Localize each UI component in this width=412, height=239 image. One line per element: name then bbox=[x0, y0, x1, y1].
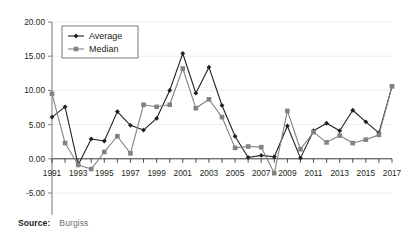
data-point-average bbox=[193, 91, 198, 96]
x-tick-label: 2015 bbox=[357, 168, 376, 178]
data-point-median bbox=[259, 145, 264, 150]
y-tick-label: 5.00 bbox=[29, 120, 46, 130]
series-line-median bbox=[52, 69, 392, 174]
data-point-average bbox=[259, 153, 264, 158]
data-point-median bbox=[194, 106, 199, 111]
data-point-median bbox=[272, 171, 277, 176]
data-point-median bbox=[390, 84, 395, 89]
data-point-median bbox=[246, 144, 251, 149]
data-point-median bbox=[76, 163, 81, 168]
y-tick-label: 20.00 bbox=[24, 17, 45, 27]
legend-label-average: Average bbox=[89, 31, 122, 41]
x-tick-label: 2013 bbox=[330, 168, 349, 178]
x-tick-label: 2011 bbox=[305, 168, 323, 178]
data-point-median bbox=[207, 97, 212, 102]
y-tick-label: -5.00 bbox=[26, 188, 45, 198]
data-point-median bbox=[141, 102, 146, 107]
x-tick-label: 2001 bbox=[174, 168, 193, 178]
data-point-median bbox=[63, 141, 68, 146]
y-tick-label: 10.00 bbox=[24, 85, 45, 95]
x-tick-label: 1995 bbox=[95, 168, 114, 178]
y-tick-label: 0.00 bbox=[29, 154, 46, 164]
data-point-median bbox=[324, 140, 329, 145]
source-value: Burgiss bbox=[59, 218, 88, 228]
chart-figure: 20.0015.0010.005.000.00-5.00199119931995… bbox=[0, 0, 412, 239]
data-point-median bbox=[220, 115, 225, 120]
line-chart: 20.0015.0010.005.000.00-5.00199119931995… bbox=[0, 0, 412, 239]
data-point-median bbox=[180, 66, 185, 71]
data-point-median bbox=[128, 151, 133, 156]
data-point-median bbox=[50, 92, 55, 97]
x-tick-label: 1999 bbox=[147, 168, 166, 178]
x-tick-label: 2009 bbox=[278, 168, 297, 178]
data-point-median bbox=[285, 109, 290, 114]
series-line-average bbox=[52, 53, 392, 164]
data-point-median bbox=[364, 137, 369, 142]
data-point-average bbox=[298, 156, 303, 161]
data-point-average bbox=[207, 65, 212, 70]
data-point-average bbox=[220, 103, 225, 108]
legend-label-median: Median bbox=[89, 44, 119, 54]
y-tick-label: 15.00 bbox=[24, 51, 45, 61]
x-tick-label: 2003 bbox=[200, 168, 219, 178]
x-tick-label: 1997 bbox=[121, 168, 140, 178]
data-point-median bbox=[102, 150, 107, 155]
data-point-median bbox=[350, 141, 355, 146]
data-point-median bbox=[115, 134, 120, 139]
legend-marker-median bbox=[74, 47, 79, 52]
x-tick-label: 2017 bbox=[383, 168, 402, 178]
data-point-median bbox=[233, 146, 238, 151]
data-point-median bbox=[337, 133, 342, 138]
data-point-median bbox=[154, 105, 159, 110]
data-point-average bbox=[167, 88, 172, 93]
data-point-average bbox=[89, 137, 94, 142]
source-note: Source:Burgiss bbox=[18, 218, 88, 228]
x-tick-label: 2007 bbox=[252, 168, 271, 178]
source-label: Source: bbox=[18, 218, 50, 228]
data-point-median bbox=[167, 102, 172, 107]
data-point-average bbox=[180, 51, 185, 56]
data-point-median bbox=[311, 130, 316, 135]
x-tick-label: 2005 bbox=[226, 168, 245, 178]
data-point-median bbox=[89, 167, 94, 172]
x-tick-label: 1993 bbox=[69, 168, 88, 178]
data-point-median bbox=[377, 133, 382, 138]
data-point-median bbox=[298, 147, 303, 152]
data-point-average bbox=[102, 139, 107, 144]
x-tick-label: 1991 bbox=[43, 168, 62, 178]
